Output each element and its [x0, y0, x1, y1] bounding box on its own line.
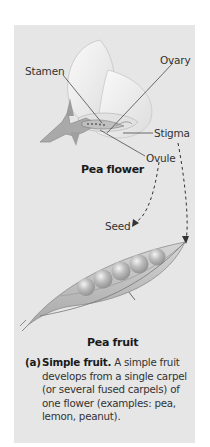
caption-tag: (a) — [25, 356, 41, 370]
label-ovary: Ovary — [160, 55, 190, 66]
caption-title: Simple fruit. — [42, 356, 111, 368]
label-stamen: Stamen — [25, 66, 64, 77]
pea-pod-drawing — [20, 242, 185, 331]
label-seed: Seed — [105, 221, 130, 232]
label-stigma: Stigma — [154, 128, 190, 139]
flower-caption: Pea flower — [81, 163, 144, 176]
fruit-caption: Pea fruit — [87, 336, 138, 349]
pea-flower-drawing — [40, 40, 152, 146]
figure-caption: (a)Simple fruit. A simple fruit develops… — [25, 356, 190, 424]
label-ovule: Ovule — [146, 153, 176, 164]
